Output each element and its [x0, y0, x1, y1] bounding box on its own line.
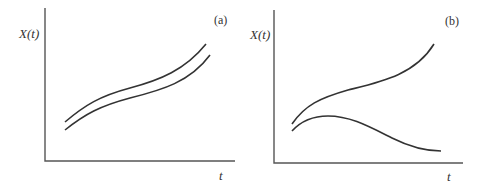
panel-a-lower-curve	[65, 55, 210, 130]
panel-a-xlabel: t	[219, 168, 223, 183]
panel-a: X(t) t (a)	[18, 8, 235, 183]
panel-b-axes	[274, 10, 463, 163]
panel-b-tag: (b)	[445, 14, 459, 28]
panel-a-upper-curve	[65, 44, 206, 122]
figure: X(t) t (a) X(t) t (b)	[0, 0, 486, 190]
panel-b-xlabel: t	[447, 169, 451, 184]
panel-b-upper-curve	[292, 44, 434, 124]
panel-b: X(t) t (b)	[249, 10, 463, 184]
panel-a-ylabel: X(t)	[18, 26, 39, 41]
panel-b-ylabel: X(t)	[249, 27, 270, 42]
panel-a-tag: (a)	[214, 13, 227, 27]
panel-b-lower-curve	[292, 116, 441, 151]
